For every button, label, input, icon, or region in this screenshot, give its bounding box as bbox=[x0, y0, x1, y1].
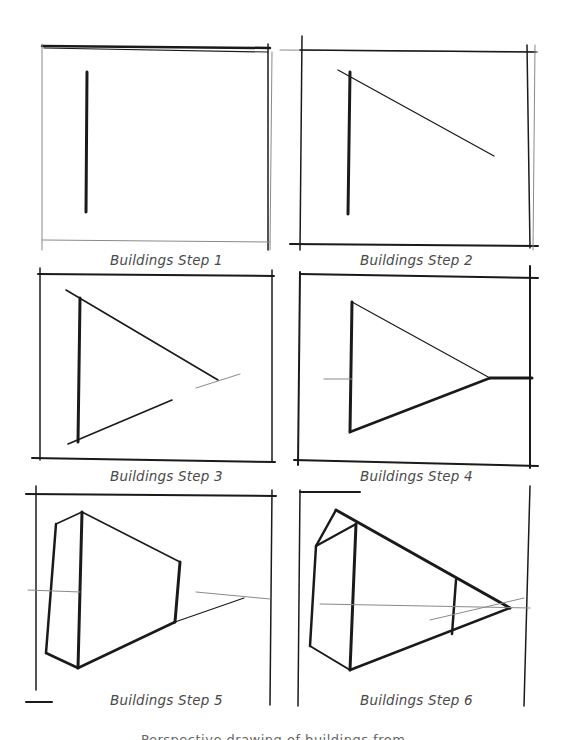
sketch-step-5 bbox=[0, 480, 290, 720]
sketch-step-1 bbox=[0, 0, 290, 270]
panel-step-5: Buildings Step 5 bbox=[0, 480, 290, 720]
panel-step-3: Buildings Step 3 bbox=[0, 260, 290, 490]
sketch-step-2 bbox=[280, 0, 565, 270]
sketch-step-6 bbox=[280, 480, 565, 720]
sketch-sheet: Buildings Step 1 Buildings Step 2 Buildi bbox=[0, 0, 565, 740]
panel-caption: Buildings Step 5 bbox=[110, 692, 223, 708]
panel-step-4: Buildings Step 4 bbox=[280, 260, 565, 490]
panel-step-2: Buildings Step 2 bbox=[280, 0, 565, 270]
panel-step-6: Buildings Step 6 bbox=[280, 480, 565, 720]
panel-caption: Buildings Step 6 bbox=[360, 692, 473, 708]
sketch-step-3 bbox=[0, 260, 290, 490]
sketch-step-4 bbox=[280, 260, 565, 490]
panel-step-1: Buildings Step 1 bbox=[0, 0, 290, 270]
figure-caption: Perspective drawing of buildings from ..… bbox=[0, 729, 565, 740]
